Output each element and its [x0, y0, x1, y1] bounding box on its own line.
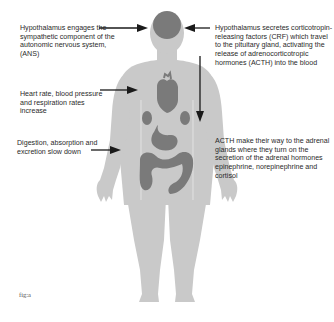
- annotation-acth-adrenal: ACTH make their way to the adrenal gland…: [215, 137, 333, 181]
- annotation-heart-rate: Heart rate, blood pressure and respirati…: [20, 90, 110, 116]
- left-leg: [127, 198, 166, 302]
- arrow-crf-to-brain: [184, 24, 210, 32]
- annotation-hypothalamus-ans: Hypothalamus engages the sympathetic com…: [20, 24, 120, 59]
- brain-icon: [153, 11, 181, 39]
- annotation-hypothalamus-crf: Hypothalamus secretes corticotropin-rele…: [215, 24, 333, 68]
- right-leg: [168, 198, 207, 302]
- left-kidney-icon: [142, 111, 152, 125]
- right-kidney-icon: [180, 111, 190, 125]
- figure-label: fig:a: [19, 291, 31, 298]
- annotation-digestion: Digestion, absorption and excretion slow…: [17, 139, 117, 156]
